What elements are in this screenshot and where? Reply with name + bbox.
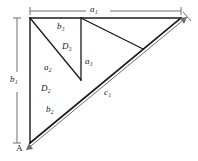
triangle-hypotenuse [30, 18, 181, 143]
label-b1: b₁ [10, 75, 18, 84]
diagonal-a2 [30, 18, 81, 80]
label-a2: a₂ [44, 63, 52, 72]
label-A: A [16, 144, 23, 153]
dimension-bar-c1 [26, 12, 191, 150]
main-triangle [30, 18, 181, 143]
subdivision-level-2 [30, 18, 81, 80]
label-b2: b₂ [46, 105, 54, 114]
c1-arrow-end [180, 17, 187, 24]
label-c1: c₁ [104, 88, 111, 97]
dimension-bar-a1 [30, 7, 181, 15]
label-a1: a₁ [90, 5, 98, 14]
subdivision-level-3 [81, 18, 143, 80]
inner-diagonal [81, 18, 143, 49]
label-b3: b₃ [57, 22, 65, 31]
label-D3: D₃ [62, 42, 72, 51]
label-a3: a₃ [85, 57, 93, 66]
geometry-figure: a₁ b₁ b₃ D₃ a₃ a₂ D₂ b₂ c₁ A [0, 0, 198, 161]
c1-arrow-start [26, 143, 33, 150]
figure-canvas [0, 0, 198, 161]
label-D2: D₂ [41, 84, 51, 93]
